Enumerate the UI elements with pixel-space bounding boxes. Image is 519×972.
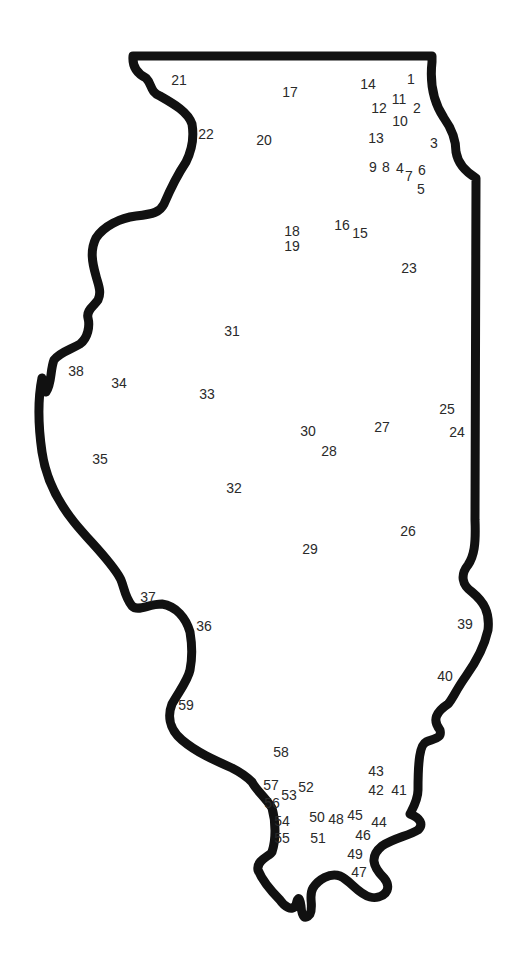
dot-label-36: 36 — [196, 618, 212, 634]
dot-label-40: 40 — [437, 668, 453, 684]
dot-label-16: 16 — [334, 217, 350, 233]
dot-label-5: 5 — [417, 181, 425, 197]
dot-label-20: 20 — [256, 132, 272, 148]
dot-label-30: 30 — [300, 423, 316, 439]
dot-label-46: 46 — [355, 827, 371, 843]
dot-label-35: 35 — [92, 451, 108, 467]
dot-label-38: 38 — [68, 363, 84, 379]
dot-label-37: 37 — [140, 589, 156, 605]
dot-label-57: 57 — [263, 777, 279, 793]
dot-label-58: 58 — [273, 744, 289, 760]
dot-label-21: 21 — [171, 72, 187, 88]
dot-label-11: 11 — [392, 91, 407, 107]
dot-label-27: 27 — [374, 419, 390, 435]
map-canvas: 1234567891011121314151617181920212223242… — [0, 0, 519, 972]
dot-label-32: 32 — [226, 480, 242, 496]
dot-label-47: 47 — [351, 864, 367, 880]
dot-label-15: 15 — [352, 225, 368, 241]
dot-label-29: 29 — [302, 541, 318, 557]
dot-label-41: 41 — [391, 782, 407, 798]
dot-label-10: 10 — [392, 113, 408, 129]
dot-label-50: 50 — [309, 809, 325, 825]
dot-label-19: 19 — [284, 238, 300, 254]
dot-label-51: 51 — [310, 830, 326, 846]
dot-label-13: 13 — [368, 130, 384, 146]
illinois-map: 1234567891011121314151617181920212223242… — [0, 0, 519, 972]
dot-label-26: 26 — [400, 523, 416, 539]
dot-label-48: 48 — [328, 811, 344, 827]
dot-label-3: 3 — [430, 135, 438, 151]
dot-label-39: 39 — [457, 616, 473, 632]
dot-label-9: 9 — [369, 159, 377, 175]
dot-label-7: 7 — [405, 168, 413, 184]
dot-label-45: 45 — [347, 807, 363, 823]
dot-label-34: 34 — [111, 375, 127, 391]
dot-label-8: 8 — [382, 159, 390, 175]
dot-label-17: 17 — [282, 84, 298, 100]
dot-label-44: 44 — [371, 814, 387, 830]
dot-label-33: 33 — [199, 386, 215, 402]
dot-label-55: 55 — [274, 830, 290, 846]
dot-label-24: 24 — [449, 424, 465, 440]
dot-label-14: 14 — [360, 76, 376, 92]
dot-label-22: 22 — [198, 126, 214, 142]
dot-label-12: 12 — [371, 100, 387, 116]
dot-label-1: 1 — [407, 71, 415, 87]
dot-label-18: 18 — [284, 223, 300, 239]
dot-label-4: 4 — [396, 160, 404, 176]
dot-label-25: 25 — [439, 401, 455, 417]
dot-label-53: 53 — [281, 787, 297, 803]
dot-label-23: 23 — [401, 260, 417, 276]
dot-label-28: 28 — [321, 443, 337, 459]
dot-label-54: 54 — [274, 813, 290, 829]
dot-label-56: 56 — [264, 795, 280, 811]
dot-label-59: 59 — [178, 697, 194, 713]
dot-label-49: 49 — [347, 846, 363, 862]
dot-label-42: 42 — [368, 782, 384, 798]
dot-label-43: 43 — [368, 763, 384, 779]
dot-label-31: 31 — [224, 323, 240, 339]
dot-label-6: 6 — [418, 162, 426, 178]
dot-label-2: 2 — [413, 100, 421, 116]
dot-label-52: 52 — [298, 779, 314, 795]
